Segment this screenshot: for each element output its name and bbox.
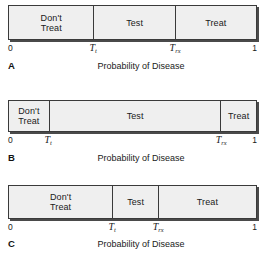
panel-c: Don't Treat Test Treat 0 Tt Trx 1 C Prob… <box>0 180 268 256</box>
panel-b-caption-text: Probability of Disease <box>97 153 184 163</box>
panel-c-segment-treat: Treat <box>158 186 256 218</box>
panel-c-caption-text: Probability of Disease <box>97 239 184 249</box>
panel-a-segment-treat: Treat <box>175 6 256 39</box>
panel-b-tick-threshold-test-symbol: T <box>44 134 50 145</box>
panel-c-tick-threshold-test-sub: t <box>114 226 116 233</box>
panel-b-tick-threshold-test-sub: t <box>50 139 52 146</box>
panel-b-tick-threshold-treat-sub: rx <box>221 139 226 146</box>
panel-b-segment-test: Test <box>49 101 221 131</box>
panel-a-tick-threshold-test-symbol: T <box>89 42 95 53</box>
panel-b-tick-threshold-test: Tt <box>44 134 51 147</box>
panel-b-tick-threshold-treat-symbol: T <box>216 134 222 145</box>
panel-a-segment-test: Test <box>93 6 174 39</box>
panel-a-segment-dont-treat: Don't Treat <box>9 6 93 39</box>
panel-a-tick-zero: 0 <box>8 42 13 54</box>
panel-b-segment-dont-treat: Don't Treat <box>9 101 49 131</box>
threshold-figure: Don't Treat Test Treat 0 Tt Trx 1 A Prob… <box>0 0 268 256</box>
panel-b-bar: Don't Treat Test Treat <box>8 100 257 132</box>
panel-a-tick-threshold-test: Tt <box>89 42 96 55</box>
panel-c-tick-zero: 0 <box>8 221 13 233</box>
panel-a-bar-wrap: Don't Treat Test Treat <box>8 5 257 40</box>
panel-a-tick-one: 1 <box>252 42 257 54</box>
panel-c-tick-threshold-treat: Trx <box>153 221 164 234</box>
panel-b-tick-threshold-treat: Trx <box>216 134 227 147</box>
panel-c-bar: Don't Treat Test Treat <box>8 185 257 219</box>
panel-b-tick-one: 1 <box>252 134 257 146</box>
panel-a-tick-threshold-treat-symbol: T <box>170 42 176 53</box>
panel-b-caption: Probability of Disease <box>0 152 268 164</box>
panel-b-tick-zero: 0 <box>8 134 13 146</box>
panel-c-tick-threshold-test: Tt <box>108 221 115 234</box>
panel-a-tick-threshold-test-sub: t <box>95 47 97 54</box>
panel-c-segment-dont-treat: Don't Treat <box>9 186 112 218</box>
panel-c-caption: Probability of Disease <box>0 238 268 250</box>
panel-c-tick-threshold-treat-sub: rx <box>158 226 163 233</box>
panel-a-tick-threshold-treat: Trx <box>170 42 181 55</box>
panel-c-tick-one: 1 <box>252 221 257 233</box>
panel-b-bar-wrap: Don't Treat Test Treat <box>8 100 257 132</box>
panel-a: Don't Treat Test Treat 0 Tt Trx 1 A Prob… <box>0 0 268 85</box>
panel-a-bar: Don't Treat Test Treat <box>8 5 257 40</box>
panel-a-ticks: 0 Tt Trx 1 <box>8 42 257 55</box>
panel-b-segment-treat: Treat <box>220 101 256 131</box>
panel-c-bar-wrap: Don't Treat Test Treat <box>8 185 257 219</box>
panel-b-ticks: 0 Tt Trx 1 <box>8 134 257 147</box>
panel-b: Don't Treat Test Treat 0 Tt Trx 1 B Prob… <box>0 96 268 176</box>
panel-c-tick-threshold-treat-symbol: T <box>153 221 159 232</box>
panel-a-caption-text: Probability of Disease <box>97 61 184 71</box>
panel-a-tick-threshold-treat-sub: rx <box>175 47 180 54</box>
panel-a-caption: Probability of Disease <box>0 60 268 72</box>
panel-c-segment-test: Test <box>112 186 158 218</box>
panel-c-tick-threshold-test-symbol: T <box>108 221 114 232</box>
panel-c-ticks: 0 Tt Trx 1 <box>8 221 257 234</box>
